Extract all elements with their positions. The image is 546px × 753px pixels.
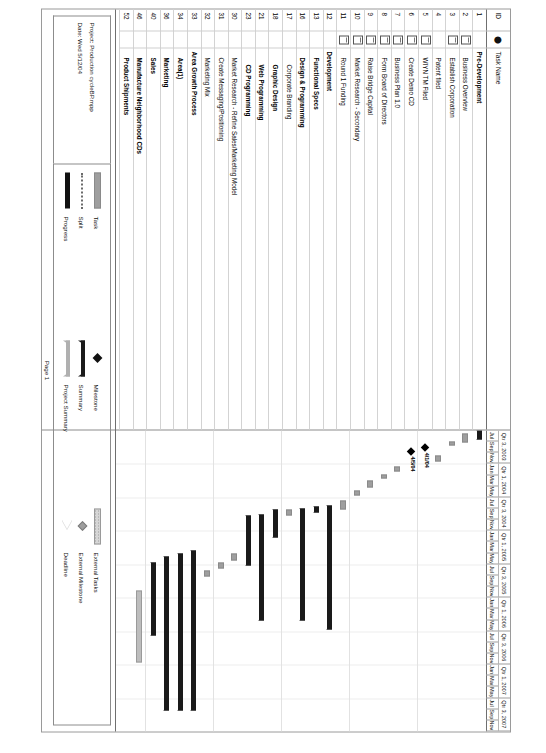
table-row[interactable]: 10Market Research - Secondary <box>350 9 364 429</box>
table-row[interactable]: 9Raise Bridge Capital <box>364 9 378 429</box>
timescale-month: Sep <box>486 709 498 720</box>
task-bar[interactable] <box>286 509 292 514</box>
table-row[interactable]: 11Round 1 Funding <box>336 9 350 429</box>
timescale-month: Jan <box>486 463 498 474</box>
table-row[interactable]: 4Patent filed <box>432 9 446 429</box>
cell-task-name: Marketing <box>160 48 174 430</box>
summary-bar[interactable] <box>246 515 251 565</box>
column-header-task-name[interactable]: Task Name <box>486 48 510 430</box>
note-icon[interactable] <box>391 31 405 48</box>
task-bar[interactable] <box>367 480 373 487</box>
legend-item: Progress <box>59 172 74 322</box>
table-row[interactable]: 2Business Overview <box>459 9 473 429</box>
note-icon[interactable] <box>459 31 473 48</box>
cell-id: 31 <box>214 9 228 31</box>
external-task-bar[interactable] <box>136 590 142 662</box>
note-icon[interactable] <box>350 31 364 48</box>
table-row[interactable]: 5WIYN TM Filed <box>418 9 432 429</box>
table-row[interactable]: 40Sales <box>146 9 160 429</box>
table-row[interactable]: 3Establish Corporation <box>445 9 459 429</box>
summary-bar[interactable] <box>259 514 264 619</box>
summary-bar[interactable] <box>273 509 278 536</box>
milestone-marker[interactable] <box>420 443 428 451</box>
summary-bar[interactable] <box>327 505 332 628</box>
table-row[interactable]: 36Marketing <box>160 9 174 429</box>
task-bar[interactable] <box>204 570 210 576</box>
task-bar[interactable] <box>231 553 237 560</box>
table-row[interactable]: 6Create Demo CD <box>404 9 418 429</box>
project-date-label: Date: Wed 5/12/04 <box>77 22 84 73</box>
task-bar[interactable] <box>381 474 387 478</box>
horizontal-gridline <box>145 430 146 731</box>
task-bar[interactable] <box>449 441 455 445</box>
cell-id: 34 <box>173 9 187 31</box>
timescale-quarter: Qtr 1, 2005 <box>498 530 510 563</box>
timescale-month: Sep <box>486 575 498 586</box>
timescale-month: Jan <box>486 530 498 541</box>
cell-id: 46 <box>133 9 147 31</box>
task-bar[interactable] <box>435 455 441 462</box>
table-row[interactable]: 8Form Board of Directors <box>377 9 391 429</box>
table-row[interactable]: 17Corporate Branding <box>282 9 296 429</box>
table-row[interactable]: 13Functional Specs <box>309 9 323 429</box>
timescale-quarter: Qtr 1, 2006 <box>498 597 510 630</box>
milestone-marker[interactable] <box>407 447 415 455</box>
table-row[interactable]: 30Market Research - Refine Sales/Marketi… <box>228 9 242 429</box>
table-row[interactable]: 32Marketing Mix <box>201 9 215 429</box>
timescale-month: Jul <box>486 698 498 709</box>
column-header-indicator[interactable]: ⬤ <box>486 31 510 48</box>
table-row[interactable]: 18Graphic Design <box>269 9 283 429</box>
legend-footer: Project: Production cycleBP.mpp Date: We… <box>42 9 116 731</box>
note-icon[interactable] <box>445 31 459 48</box>
table-row[interactable]: 52Product Shipments <box>119 9 133 429</box>
table-row[interactable]: 34Area(1) <box>173 9 187 429</box>
summary-bar[interactable] <box>164 556 169 710</box>
psum-swatch-icon <box>66 340 70 376</box>
timescale-month: Sep <box>486 642 498 653</box>
note-icon[interactable] <box>404 31 418 48</box>
legend-label: Deadline <box>59 552 74 576</box>
cell-id: 7 <box>391 9 405 31</box>
cell-id: 11 <box>336 9 350 31</box>
task-bar[interactable] <box>340 500 346 509</box>
table-row[interactable]: 12Development <box>323 9 337 429</box>
column-header-id[interactable]: ID <box>486 9 510 31</box>
timescale-month: Sep <box>486 441 498 452</box>
task-bar[interactable] <box>462 433 468 442</box>
summary-bar[interactable] <box>314 506 319 512</box>
timescale-month: Jan <box>486 664 498 675</box>
table-row[interactable]: 23CD Programming <box>241 9 255 429</box>
cell-task-name: Sales <box>146 48 160 430</box>
cell-task-name: Product Shipments <box>119 48 133 430</box>
task-bar[interactable] <box>354 490 360 495</box>
timescale-month: May <box>486 686 498 697</box>
cell-task-name: Round 1 Funding <box>336 48 350 430</box>
note-icon[interactable] <box>336 31 350 48</box>
table-row[interactable]: 21Web Programming <box>255 9 269 429</box>
legend-item: External Milestone <box>74 508 89 658</box>
legend-item: Summary <box>74 340 89 490</box>
table-row[interactable]: 31Create Messaging/Positioning <box>214 9 228 429</box>
timescale-quarter: Qtr 1, 2007 <box>498 664 510 697</box>
project-file-label: Project: Production cycleBP.mpp <box>89 22 96 111</box>
summary-bar[interactable] <box>477 430 482 439</box>
task-bar[interactable] <box>394 466 400 471</box>
table-row[interactable]: 16Design & Programming <box>296 9 310 429</box>
summary-bar[interactable] <box>300 508 305 619</box>
table-row[interactable]: 1Pre-Development <box>472 9 486 429</box>
legend-label: Summary <box>74 384 89 410</box>
note-icon[interactable] <box>364 31 378 48</box>
note-icon[interactable] <box>377 31 391 48</box>
table-row[interactable]: 7Business Plan 1.0 <box>391 9 405 429</box>
note-icon[interactable] <box>418 31 432 48</box>
cell-id: 1 <box>472 9 486 31</box>
cell-id: 8 <box>377 9 391 31</box>
table-row[interactable]: 33Area Growth Process <box>187 9 201 429</box>
summary-bar[interactable] <box>178 553 183 710</box>
summary-bar[interactable] <box>151 562 156 634</box>
task-bar[interactable] <box>218 562 224 568</box>
timescale-month: May <box>486 553 498 564</box>
summary-bar[interactable] <box>191 550 196 710</box>
legend-label: Progress <box>59 216 74 241</box>
table-row[interactable]: 46Manufacture Neighborhood CDs <box>133 9 147 429</box>
